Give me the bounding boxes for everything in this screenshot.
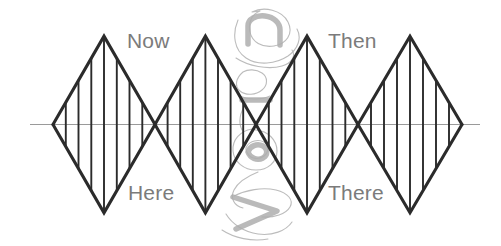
lower-envelope-path — [53, 125, 462, 213]
label-here: Here — [128, 182, 174, 203]
label-now: Now — [127, 30, 170, 51]
label-there: There — [328, 182, 384, 203]
upper-envelope-path — [53, 36, 462, 124]
figure-canvas: Now Then Here There — [0, 0, 501, 246]
label-then: Then — [328, 30, 377, 51]
diamond-lattice-svg — [0, 0, 501, 246]
